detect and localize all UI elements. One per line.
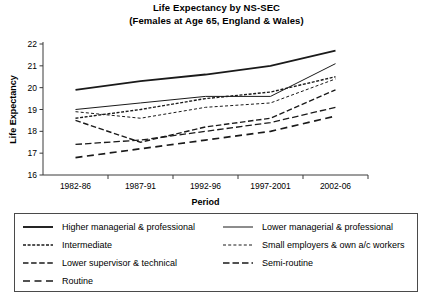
series-line [76,116,336,157]
legend-item-label: Lower supervisor & technical [62,258,177,268]
legend-item-label: Routine [62,276,93,286]
legend-item[interactable]: Higher managerial & professional [23,220,195,234]
chart-title-line-1: Life Expectancy by NS-SEC [0,2,433,15]
legend-line-swatch [223,222,253,232]
x-axis-tick-label: 1982-86 [60,181,91,191]
y-axis-tick-label: 20 [28,83,38,93]
y-axis-tick-label: 16 [28,170,38,180]
legend-item[interactable]: Intermediate [23,238,112,252]
chart-container: Life Expectancy by NS-SEC (Females at Ag… [0,0,433,298]
y-axis-title: Life Expectancy [8,75,18,144]
legend-item[interactable]: Routine [23,274,93,288]
x-axis-title: Period [191,197,219,207]
legend-item[interactable]: Lower managerial & professional [223,220,393,234]
y-axis-tick-label: 21 [28,61,38,71]
x-axis-tick-label: 2002-06 [320,181,351,191]
chart-legend: Higher managerial & professionalIntermed… [14,213,418,292]
legend-line-swatch [23,276,53,286]
y-axis-tick-label: 22 [28,39,38,49]
legend-item-label: Intermediate [62,240,112,250]
legend-line-swatch [23,240,53,250]
chart-title: Life Expectancy by NS-SEC (Females at Ag… [0,2,433,27]
legend-item[interactable]: Semi-routine [223,256,313,270]
legend-item-label: Higher managerial & professional [62,222,195,232]
line-chart-plot: 161718192021221982-861987-911992-961997-… [0,28,433,213]
legend-item-label: Small employers & own a/c workers [262,240,405,250]
y-axis-tick-label: 17 [28,148,38,158]
legend-line-swatch [223,258,253,268]
chart-title-line-2: (Females at Age 65, England & Wales) [0,15,433,28]
legend-item-label: Lower managerial & professional [262,222,393,232]
legend-line-swatch [23,222,53,232]
x-axis-tick-label: 1987-91 [125,181,156,191]
series-line [76,51,336,90]
y-axis-tick-label: 19 [28,105,38,115]
legend-item[interactable]: Small employers & own a/c workers [223,238,405,252]
legend-item[interactable]: Lower supervisor & technical [23,256,177,270]
y-axis-tick-label: 18 [28,126,38,136]
x-axis-tick-label: 1997-2001 [250,181,291,191]
legend-line-swatch [23,258,53,268]
legend-line-swatch [223,240,253,250]
x-axis-tick-label: 1992-96 [190,181,221,191]
legend-item-label: Semi-routine [262,258,313,268]
